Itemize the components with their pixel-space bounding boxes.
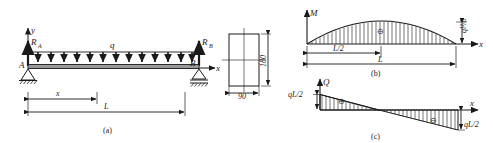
shear-right-label: qL/2 <box>464 120 479 129</box>
shear-diagram-figure-c: Q x <box>288 77 479 141</box>
pin-support-icon <box>19 69 37 84</box>
beam-x-axis: x <box>199 63 220 73</box>
dimension-L: L <box>29 92 185 116</box>
moment-dimension-full-label: L <box>377 55 383 64</box>
shear-left-label: qL/2 <box>288 90 303 99</box>
support-right-label: B <box>190 58 196 68</box>
shear-left-value: qL/2 <box>288 90 320 109</box>
shear-hatching-left <box>322 96 374 111</box>
shear-axis-Q: Q <box>320 77 330 110</box>
cross-section-figure: 180 90 <box>222 28 271 101</box>
cross-section-height-dimension: 180 <box>259 34 271 86</box>
shear-axis-label: Q <box>323 77 330 87</box>
dimension-L-label: L <box>103 102 109 111</box>
shear-left-top-edge <box>320 95 379 111</box>
moment-axis-label: M <box>309 8 318 18</box>
reaction-left-label: R <box>30 37 37 47</box>
moment-peak-label: ql²/8 <box>459 18 468 33</box>
moment-dimension-half-label: L/2 <box>332 44 344 53</box>
reaction-left-sublabel: A <box>37 43 42 49</box>
reaction-right-label: R <box>201 37 208 47</box>
shear-sign-right: ⊖ <box>430 116 437 125</box>
distributed-load-arrows <box>38 52 192 62</box>
beam-x-axis-label: x <box>215 63 220 73</box>
reaction-right-sublabel: B <box>209 43 213 49</box>
shear-triangle-right <box>379 110 458 130</box>
dimension-x-label: x <box>55 89 60 98</box>
load-label-q: q <box>110 40 115 50</box>
caption-c: (c) <box>371 132 380 141</box>
engineering-figure: y R A R B <box>0 0 493 143</box>
reaction-left-arrow: R A <box>28 37 42 66</box>
shear-sign-left: ⊖ <box>338 97 345 106</box>
moment-sign-symbol: ⊖ <box>377 27 384 36</box>
moment-x-axis-label: x <box>478 39 483 49</box>
cross-section-height-label: 180 <box>259 55 268 67</box>
cross-section-width-label: 90 <box>238 92 246 101</box>
reaction-right-arrow: R B <box>199 37 213 66</box>
shear-x-axis-label: x <box>469 98 474 108</box>
roller-support-icon <box>190 69 208 87</box>
support-left-label: A <box>18 60 25 70</box>
caption-b: (b) <box>371 69 381 78</box>
moment-diagram-figure-b: M x <box>307 8 483 78</box>
shear-right-value: qL/2 <box>458 111 479 130</box>
beam-body <box>28 65 199 69</box>
beam-y-axis-label: y <box>30 25 35 35</box>
beam-figure-a: y R A R B <box>18 25 220 135</box>
caption-a: (a) <box>103 126 112 135</box>
moment-peak-dimension: ql²/8 <box>456 18 468 43</box>
moment-dimension-full: L <box>308 46 456 68</box>
